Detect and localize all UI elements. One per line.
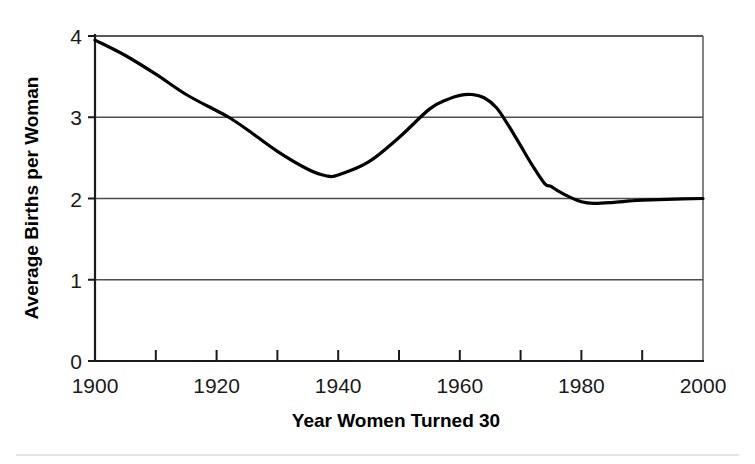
x-tick-label-1920: 1920 <box>193 374 240 397</box>
y-axis-tick-labels: 01234 <box>70 25 82 373</box>
y-axis-title: Average Births per Woman <box>21 77 42 320</box>
x-axis-title: Year Women Turned 30 <box>292 410 500 431</box>
y-tick-label-4: 4 <box>70 25 82 48</box>
y-tick-label-0: 0 <box>70 350 82 373</box>
x-tick-label-1960: 1960 <box>436 374 483 397</box>
x-axis-tick-labels: 190019201940196019802000 <box>72 374 727 397</box>
y-tick-label-1: 1 <box>70 269 82 292</box>
y-tick-label-3: 3 <box>70 106 82 129</box>
y-tick-label-2: 2 <box>70 188 82 211</box>
line-chart: 01234 190019201940196019802000 Average B… <box>0 0 755 464</box>
chart-figure: 01234 190019201940196019802000 Average B… <box>0 0 755 464</box>
x-tick-label-1980: 1980 <box>558 374 605 397</box>
x-tick-label-2000: 2000 <box>680 374 727 397</box>
x-tick-label-1940: 1940 <box>315 374 362 397</box>
x-tick-label-1900: 1900 <box>72 374 119 397</box>
